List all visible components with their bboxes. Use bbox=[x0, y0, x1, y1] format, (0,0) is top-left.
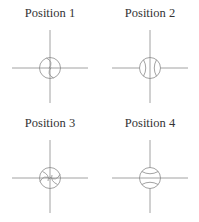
ball-icon bbox=[40, 168, 61, 189]
panel-position-4: Position 4 bbox=[112, 116, 188, 213]
seam-position-diagram: Position 1 Position 2 Position 3 bbox=[0, 0, 199, 222]
ball-icon bbox=[40, 58, 61, 79]
panel-position-1: Position 1 bbox=[12, 6, 88, 103]
panel-label: Position 4 bbox=[125, 116, 176, 130]
panel-label: Position 2 bbox=[125, 6, 175, 20]
panel-label: Position 1 bbox=[25, 6, 75, 20]
panel-label: Position 3 bbox=[25, 116, 75, 130]
panel-position-3: Position 3 bbox=[12, 116, 88, 213]
ball-icon bbox=[140, 168, 161, 189]
panel-position-2: Position 2 bbox=[112, 6, 188, 103]
ball-icon bbox=[140, 58, 161, 79]
